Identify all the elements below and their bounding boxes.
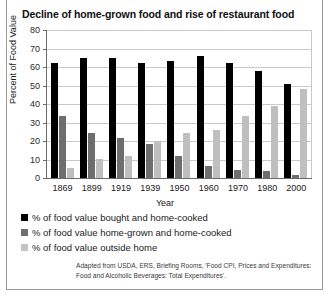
x-axis-title: Year [0, 198, 330, 208]
y-axis-tick [43, 30, 47, 31]
chart-title: Decline of home-grown food and rise of r… [22, 8, 294, 20]
bar [197, 56, 204, 178]
bar-group: 1960 [194, 30, 223, 178]
x-axis-tick-label: 2000 [282, 183, 311, 193]
x-axis-tick-label: 1970 [223, 183, 252, 193]
y-axis-tick [43, 160, 47, 161]
y-axis-tick-label: 0 [35, 173, 40, 183]
bar [175, 156, 182, 178]
y-axis-tick [43, 141, 47, 142]
y-axis-tick-label: 80 [30, 25, 40, 35]
bar [205, 166, 212, 178]
x-axis-tick-label: 1939 [136, 183, 165, 193]
bar-group: 1939 [136, 30, 165, 178]
bar-group: 1980 [253, 30, 282, 178]
legend-item: % of food value bought and home-cooked [21, 210, 311, 225]
y-axis-tick [43, 123, 47, 124]
legend-item: % of food value home-grown and home-cook… [21, 225, 311, 240]
bar [234, 170, 241, 178]
legend-swatch-icon [21, 244, 28, 251]
legend-item: % of food value outside home [21, 240, 311, 255]
bar [146, 144, 153, 178]
bar-group: 1869 [48, 30, 77, 178]
y-axis-tick-label: 40 [30, 99, 40, 109]
bar [213, 130, 220, 178]
bar [271, 106, 278, 178]
source-note: Adapted from USDA, ERS, Briefing Rooms, … [76, 261, 316, 280]
y-axis-tick-label: 50 [30, 81, 40, 91]
bar-group: 1970 [223, 30, 252, 178]
y-axis-tick-label: 30 [30, 118, 40, 128]
bar [80, 58, 87, 178]
bar [96, 159, 103, 178]
legend-label: % of food value home-grown and home-cook… [32, 227, 232, 238]
x-axis-tick-label: 1899 [77, 183, 106, 193]
bar [226, 63, 233, 178]
bar [67, 168, 74, 178]
bar [59, 116, 66, 178]
y-axis-tick [43, 104, 47, 105]
bar-group: 1919 [106, 30, 135, 178]
y-axis-tick [43, 49, 47, 50]
figure-border-left [6, 0, 7, 290]
bar [284, 84, 291, 178]
figure-border-right [322, 0, 323, 290]
y-axis-tick [43, 178, 47, 179]
bar [167, 61, 174, 178]
legend-swatch-icon [21, 229, 28, 236]
bar [183, 133, 190, 178]
bar [51, 63, 58, 178]
y-axis-tick [43, 86, 47, 87]
x-axis-tick-label: 1980 [253, 183, 282, 193]
y-axis-tick-label: 20 [30, 136, 40, 146]
chart-legend: % of food value bought and home-cooked% … [21, 210, 311, 255]
bar-groups: 186918991919193919501960197019802000 [48, 30, 311, 178]
bar [242, 116, 249, 178]
y-axis-title: Percent of Food Value [8, 15, 18, 104]
bar [154, 141, 161, 178]
chart-figure: Decline of home-grown food and rise of r… [0, 0, 330, 296]
legend-label: % of food value outside home [32, 242, 157, 253]
figure-border-bottom [6, 289, 323, 290]
bar [109, 58, 116, 178]
bar [117, 138, 124, 178]
y-axis-tick [43, 67, 47, 68]
bar-group: 2000 [282, 30, 311, 178]
bar-group: 1950 [165, 30, 194, 178]
legend-label: % of food value bought and home-cooked [32, 212, 208, 223]
y-axis-tick-label: 70 [30, 44, 40, 54]
legend-swatch-icon [21, 214, 28, 221]
bar [300, 89, 307, 178]
x-axis-tick-label: 1919 [106, 183, 135, 193]
bar [263, 171, 270, 178]
bar [255, 71, 262, 178]
bar [138, 63, 145, 178]
y-axis-tick-label: 10 [30, 155, 40, 165]
y-axis-tick-label: 60 [30, 62, 40, 72]
bar-group: 1899 [77, 30, 106, 178]
bar [125, 156, 132, 178]
bar [292, 175, 299, 178]
x-axis-tick-label: 1960 [194, 183, 223, 193]
plot-area: 01020304050607080 1869189919191939195019… [46, 30, 312, 179]
x-axis-tick-label: 1869 [48, 183, 77, 193]
bar [88, 133, 95, 178]
x-axis-tick-label: 1950 [165, 183, 194, 193]
